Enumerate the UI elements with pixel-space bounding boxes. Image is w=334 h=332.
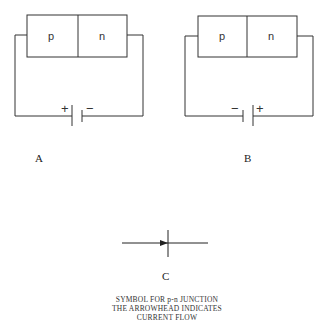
- diagram-a-label: A: [35, 152, 43, 164]
- caption-line-3: CURRENT FLOW: [0, 313, 334, 322]
- arrowhead-icon: [160, 240, 168, 246]
- region-n-label-b: n: [268, 30, 274, 42]
- region-p-label-b: p: [219, 30, 225, 42]
- battery-minus-sign-a: −: [86, 101, 94, 116]
- region-p-label-a: p: [48, 30, 54, 42]
- circuit-a: [15, 15, 143, 126]
- caption-line-2: THE ARROWHEAD INDICATES: [0, 304, 334, 313]
- symbol-caption: SYMBOL FOR p-n JUNCTION THE ARROWHEAD IN…: [0, 295, 334, 322]
- diagram-canvas: p n + − A p n − + B C: [0, 0, 334, 332]
- circuit-b: [185, 16, 313, 126]
- pn-junction-block-a: [27, 15, 127, 57]
- symbol-c-label: C: [162, 270, 169, 282]
- battery-plus-sign-b: +: [256, 101, 264, 116]
- battery-minus-sign-b: −: [231, 101, 239, 116]
- battery-plus-sign-a: +: [61, 101, 69, 116]
- caption-line-1: SYMBOL FOR p-n JUNCTION: [0, 295, 334, 304]
- region-n-label-a: n: [99, 30, 105, 42]
- diagram-b-label: B: [244, 152, 251, 164]
